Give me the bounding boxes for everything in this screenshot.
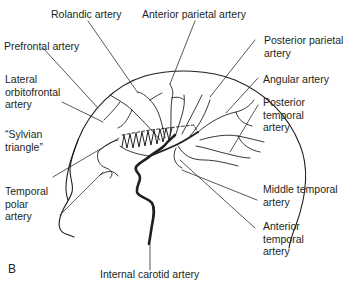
label-angular-artery: Angular artery — [263, 73, 329, 86]
sylvian-triangle-base — [120, 146, 150, 156]
label-temporal-polar-artery: Temporal polar artery — [5, 185, 48, 223]
label-posterior-temporal-artery: Posterior temporal artery — [263, 96, 305, 134]
label-anterior-temporal-artery: Anterior temporal artery — [263, 220, 304, 258]
face-outline — [59, 140, 78, 237]
label-rolandic-artery: Rolandic artery — [51, 8, 122, 21]
label-prefrontal-artery: Prefrontal artery — [4, 40, 79, 53]
label-posterior-parietal-artery: Posterior parietal artery — [264, 34, 343, 59]
panel-label: B — [8, 263, 16, 276]
label-middle-temporal-artery: Middle temporal artery — [263, 183, 338, 208]
internal-carotid-vessel — [136, 135, 175, 244]
cortical-branches — [97, 84, 264, 178]
label-internal-carotid-artery: Internal carotid artery — [100, 268, 199, 281]
label-sylvian-triangle: “Sylvian triangle” — [5, 128, 43, 153]
label-anterior-parietal-artery: Anterior parietal artery — [142, 8, 246, 21]
label-lateral-orbitofrontal-artery: Lateral orbitofrontal artery — [5, 73, 60, 111]
